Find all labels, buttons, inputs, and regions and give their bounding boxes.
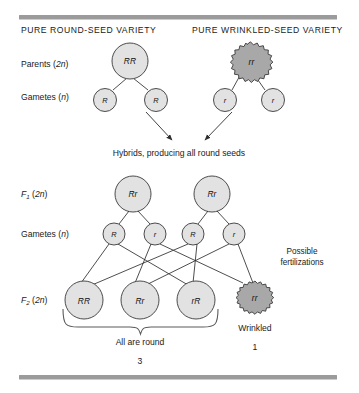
f1-right-node: Rr: [194, 176, 230, 212]
f2-node-4-wrinkled: rr: [236, 281, 274, 314]
bottom-rule-bar: [19, 375, 337, 380]
gamete-parental-round-1: R: [94, 89, 117, 112]
ratio-round: 3: [138, 356, 143, 366]
f2-node-1: RR: [65, 281, 103, 319]
f1-left-node: Rr: [115, 176, 151, 212]
f2-3-genotype: rR: [191, 296, 200, 306]
hybrid-arrows: [146, 112, 232, 140]
gamete-f1-2-genotype: r: [154, 230, 157, 239]
gamete-parental-round-2: R: [145, 89, 168, 112]
figure-container: PURE ROUND-SEED VARIETY PURE WRINKLED-SE…: [0, 0, 359, 393]
gamete-f1-1-genotype: R: [111, 230, 117, 239]
gamete-p-wrinkled-2-genotype: r: [272, 96, 275, 105]
gamete-p-round-1-genotype: R: [102, 96, 108, 105]
all-round-caption: All are round: [116, 337, 165, 347]
label-gametes-f1: Gametes (n): [21, 229, 69, 239]
f1-right-genotype: Rr: [207, 189, 217, 199]
f2-node-3: rR: [177, 281, 215, 319]
gamete-p-round-2-genotype: R: [153, 96, 159, 105]
parent-round-genotype: RR: [124, 56, 137, 66]
gamete-f1-4: r: [223, 223, 245, 245]
possible-fertilizations-line2: fertilizations: [280, 258, 323, 267]
f2-4-genotype: rr: [252, 293, 259, 303]
parent-wrinkled-node: rr: [230, 42, 273, 83]
top-rule-bar: [19, 15, 337, 20]
gamete-f1-1: R: [103, 223, 125, 245]
label-f2: F2 (2n): [21, 295, 48, 306]
parent-wrinkled-genotype: rr: [249, 57, 256, 67]
f2-2-genotype: Rr: [135, 296, 145, 306]
f2-node-2: Rr: [121, 281, 159, 319]
hybrid-caption: Hybrids, producing all round seeds: [113, 148, 245, 158]
f2-1-genotype: RR: [78, 296, 91, 306]
label-parents: Parents (2n): [21, 59, 68, 69]
gamete-f1-3-genotype: R: [190, 230, 196, 239]
gamete-f1-4-genotype: r: [233, 230, 236, 239]
ratio-wrinkled: 1: [253, 342, 258, 352]
possible-fertilizations-line1: Possible: [287, 247, 318, 256]
gamete-parental-wrinkled-1: r: [214, 89, 237, 112]
f1-left-genotype: Rr: [128, 189, 138, 199]
heading-pure-wrinkled: PURE WRINKLED-SEED VARIETY: [192, 25, 343, 35]
gamete-f1-2: r: [144, 223, 166, 245]
mendel-inheritance-diagram: PURE ROUND-SEED VARIETY PURE WRINKLED-SE…: [0, 0, 359, 393]
label-gametes-parental: Gametes (n): [21, 92, 69, 102]
wrinkled-caption: Wrinkled: [238, 323, 271, 333]
heading-pure-round: PURE ROUND-SEED VARIETY: [21, 25, 156, 35]
fertilization-lines: [81, 244, 253, 285]
gamete-f1-3: R: [182, 223, 204, 245]
gamete-p-wrinkled-1-genotype: r: [224, 96, 227, 105]
label-f1: F1 (2n): [21, 189, 48, 200]
parent-round-node: RR: [112, 43, 148, 79]
gamete-parental-wrinkled-2: r: [262, 89, 285, 112]
f1-gamete-connectors: [119, 211, 229, 224]
